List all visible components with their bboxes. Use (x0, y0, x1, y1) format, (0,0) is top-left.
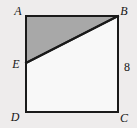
vertex-label-b: B (120, 5, 127, 17)
geometry-figure: A B E D C 8 (0, 0, 137, 128)
vertex-label-c: C (120, 112, 128, 124)
geometry-canvas (0, 0, 137, 128)
side-length-label-bc: 8 (124, 61, 130, 73)
vertex-label-d: D (11, 111, 20, 123)
vertex-label-a: A (14, 5, 21, 17)
vertex-label-e: E (12, 58, 19, 70)
